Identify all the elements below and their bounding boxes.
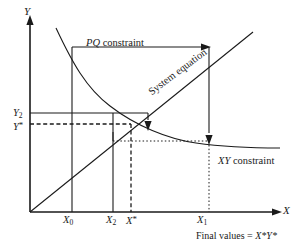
x-tick-label-x0: X0 <box>63 215 73 226</box>
y-tick-label-ystar: Y* <box>13 121 23 132</box>
xy-constraint-label-text: constraint <box>230 155 274 166</box>
y-tick-ystar-star: * <box>19 120 23 130</box>
x-tick-label-x1: X1 <box>197 215 207 226</box>
pq-constraint-label-text: constraint <box>100 37 144 48</box>
x-tick-xstar-star: * <box>132 214 136 224</box>
figure-background <box>0 0 302 251</box>
x-tick-x2-sub: 2 <box>112 218 116 227</box>
x-tick-label-xstar: X* <box>126 215 137 226</box>
final-values-prefix: Final values = <box>196 230 255 241</box>
pq-constraint-label: PQ constraint <box>86 38 144 49</box>
final-values-caption: Final values = X*Y* <box>196 231 277 241</box>
y-axis-label: Y <box>24 6 30 17</box>
pq-constraint-label-symbol: PQ <box>86 37 100 48</box>
xy-constraint-label: XY constraint <box>218 156 274 167</box>
xy-constraint-label-symbol: XY <box>218 155 230 166</box>
x-tick-x0-sub: 0 <box>69 218 73 227</box>
x-axis-label: X <box>283 205 290 216</box>
x-tick-x1-sub: 1 <box>203 218 207 227</box>
y-tick-y2-sub: 2 <box>19 111 23 120</box>
constraint-convergence-figure <box>0 0 302 251</box>
x-tick-label-x2: X2 <box>106 215 116 226</box>
final-values-expression: X*Y* <box>255 230 277 241</box>
y-tick-label-y2: Y2 <box>13 108 23 119</box>
